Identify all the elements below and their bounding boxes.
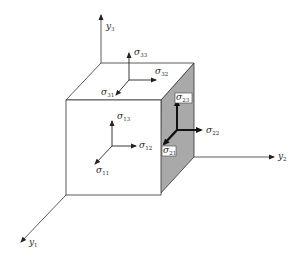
stress-cube-diagram: y3 y2 y1 σ33 σ32 σ31 σ13 σ12 σ11 σ23 σ22…: [0, 0, 305, 258]
y3-label: y3: [105, 21, 115, 32]
y1-axis: [21, 195, 66, 242]
y1-label: y1: [28, 237, 38, 248]
y2-label: y2: [277, 151, 287, 162]
sigma33-label: σ33: [134, 47, 148, 58]
sigma22-label: σ22: [206, 125, 219, 136]
